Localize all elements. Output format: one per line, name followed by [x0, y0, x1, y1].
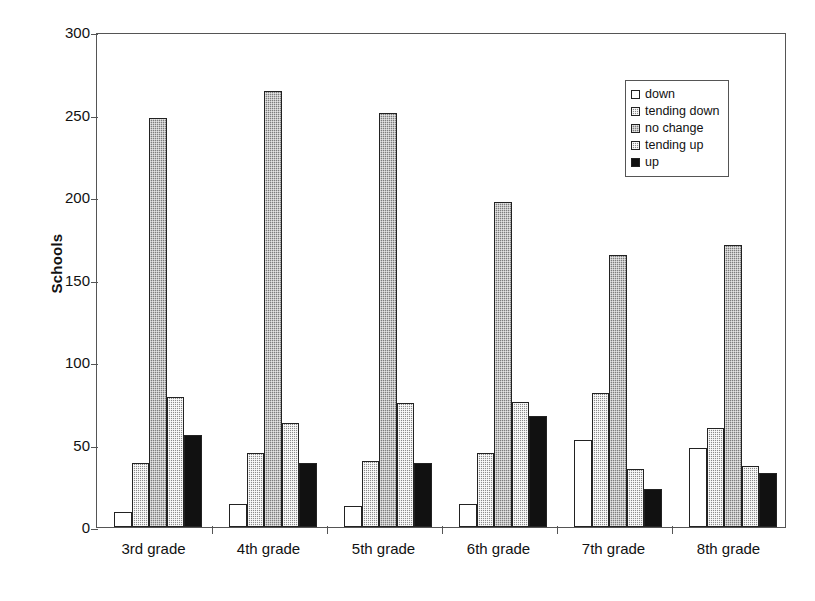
- bar-tending-up: [512, 402, 530, 527]
- legend-item: tending down: [631, 103, 719, 120]
- x-tick-label: 3rd grade: [96, 540, 211, 557]
- y-tick-mark: [91, 447, 98, 448]
- bar-tending-down: [707, 428, 725, 527]
- bar-group: [114, 34, 202, 527]
- y-tick-mark: [91, 529, 98, 530]
- x-tick-label: 7th grade: [556, 540, 671, 557]
- legend-item-label: tending down: [645, 105, 719, 118]
- bar-tending-up: [627, 469, 645, 527]
- bar-group: [229, 34, 317, 527]
- legend-item: up: [631, 154, 719, 171]
- bar-chart: Schools 300250200150100500 3rd grade4th …: [0, 0, 815, 601]
- x-tick-mark: [212, 526, 213, 534]
- bar-tending-up: [167, 397, 185, 527]
- bar-up: [644, 489, 662, 527]
- legend-item-label: no change: [645, 122, 703, 135]
- y-axis-tick-labels: 300250200150100500: [44, 0, 90, 601]
- y-tick-label: 100: [48, 355, 90, 370]
- x-tick-mark: [672, 526, 673, 534]
- bar-group: [459, 34, 547, 527]
- legend-item-label: tending up: [645, 139, 703, 152]
- bar-down: [229, 504, 247, 527]
- legend-swatch-icon: [631, 107, 640, 116]
- y-tick-label: 150: [48, 273, 90, 288]
- bar-no-change: [494, 202, 512, 527]
- y-tick-label: 200: [48, 190, 90, 205]
- x-tick-label: 6th grade: [441, 540, 556, 557]
- bar-tending-down: [477, 453, 495, 527]
- bar-tending-up: [742, 466, 760, 527]
- y-tick-label: 300: [48, 25, 90, 40]
- x-tick-mark: [557, 526, 558, 534]
- chart-legend: downtending downno changetending upup: [625, 80, 729, 177]
- y-tick-mark: [91, 34, 98, 35]
- bar-up: [759, 473, 777, 527]
- legend-item: down: [631, 86, 719, 103]
- x-tick-label: 8th grade: [671, 540, 786, 557]
- bar-tending-down: [247, 453, 265, 527]
- bar-tending-down: [132, 463, 150, 527]
- legend-swatch-icon: [631, 90, 640, 99]
- x-tick-mark: [327, 526, 328, 534]
- bar-down: [574, 440, 592, 527]
- legend-swatch-icon: [631, 124, 640, 133]
- bar-down: [114, 512, 132, 527]
- bar-tending-up: [397, 403, 415, 527]
- y-tick-mark: [91, 282, 98, 283]
- legend-item-label: up: [645, 156, 659, 169]
- bar-up: [184, 435, 202, 527]
- x-tick-label: 5th grade: [326, 540, 441, 557]
- bar-no-change: [264, 91, 282, 527]
- bar-down: [344, 506, 362, 527]
- bar-no-change: [149, 118, 167, 527]
- y-tick-mark: [91, 364, 98, 365]
- bar-no-change: [609, 255, 627, 527]
- bar-up: [414, 463, 432, 527]
- bar-no-change: [724, 245, 742, 527]
- legend-item: no change: [631, 120, 719, 137]
- legend-item: tending up: [631, 137, 719, 154]
- bar-group: [344, 34, 432, 527]
- y-tick-label: 50: [48, 438, 90, 453]
- bar-down: [459, 504, 477, 527]
- bar-tending-up: [282, 423, 300, 527]
- bar-no-change: [379, 113, 397, 527]
- x-tick-mark: [442, 526, 443, 534]
- bar-up: [529, 416, 547, 527]
- y-tick-label: 0: [48, 520, 90, 535]
- bar-up: [299, 463, 317, 527]
- y-tick-mark: [91, 199, 98, 200]
- legend-swatch-icon: [631, 158, 640, 167]
- bar-tending-down: [362, 461, 380, 527]
- bar-tending-down: [592, 393, 610, 527]
- legend-swatch-icon: [631, 141, 640, 150]
- x-tick-label: 4th grade: [211, 540, 326, 557]
- y-tick-label: 250: [48, 108, 90, 123]
- y-tick-mark: [91, 117, 98, 118]
- bar-down: [689, 448, 707, 527]
- legend-item-label: down: [645, 88, 675, 101]
